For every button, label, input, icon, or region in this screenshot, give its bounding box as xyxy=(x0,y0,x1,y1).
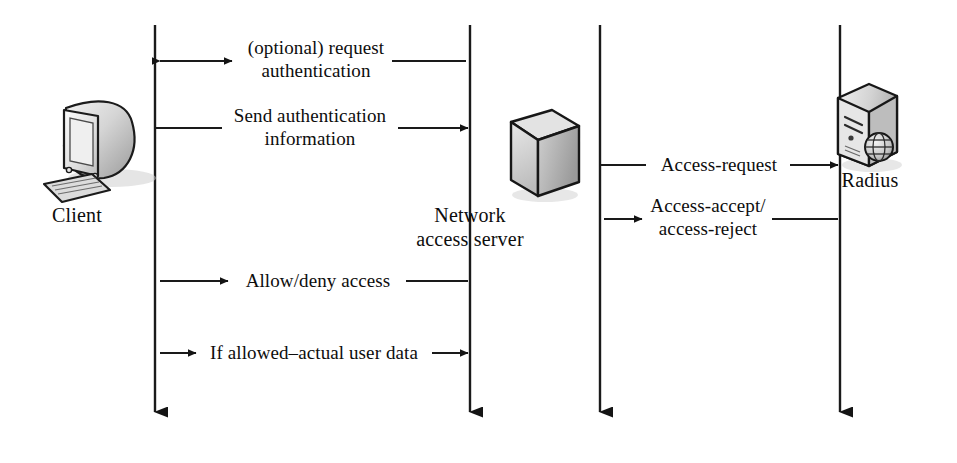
sequence-diagram: (optional) request authentication Send a… xyxy=(0,0,957,463)
actor-label-client: Client xyxy=(2,203,152,227)
message-label-send-authentication-information: Send authentication information xyxy=(216,104,404,150)
actor-label-radius: Radius xyxy=(795,168,945,192)
actor-label-nas: Network access server xyxy=(385,203,555,251)
rack-server-globe-icon xyxy=(838,84,902,172)
message-label-allow-deny-access: Allow/deny access xyxy=(228,269,408,292)
message-label-if-allowed-actual-user-data: If allowed–actual user data xyxy=(192,341,436,364)
message-label-request-authentication: (optional) request authentication xyxy=(232,36,400,82)
network-box-icon xyxy=(511,110,579,202)
message-label-access-accept-reject: Access-accept/ access-reject xyxy=(638,194,778,240)
desktop-computer-icon xyxy=(44,101,156,202)
message-label-access-request: Access-request xyxy=(645,153,793,176)
